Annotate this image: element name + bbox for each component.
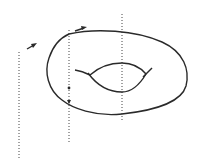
- torus-hole-lower-arc: [88, 73, 146, 92]
- arrow-middle-icon: [75, 26, 87, 31]
- diagram-svg: [0, 0, 199, 165]
- torus-diagram: [0, 0, 199, 165]
- torus-hole-upper-arc: [75, 63, 146, 75]
- torus-outer-boundary: [47, 31, 187, 115]
- arrow-left-icon: [27, 43, 37, 49]
- point-marker: [68, 87, 71, 90]
